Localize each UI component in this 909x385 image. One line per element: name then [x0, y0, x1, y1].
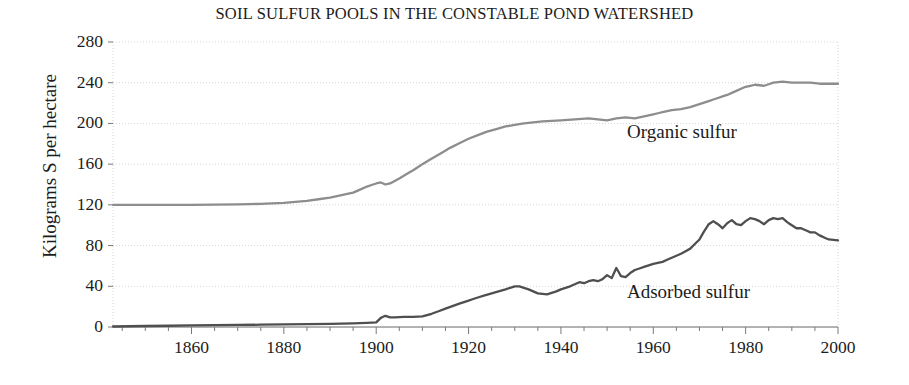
series-label-adsorbed-sulfur: Adsorbed sulfur	[627, 281, 750, 303]
plot-area	[0, 0, 909, 385]
series-label-organic-sulfur: Organic sulfur	[627, 121, 737, 143]
chart-container: SOIL SULFUR POOLS IN THE CONSTABLE POND …	[0, 0, 909, 385]
data-line-adsorbed-sulfur	[113, 218, 838, 326]
data-line-organic-sulfur	[113, 82, 838, 205]
